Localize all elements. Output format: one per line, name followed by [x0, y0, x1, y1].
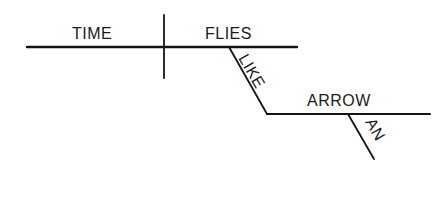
article-word: AN	[362, 115, 388, 144]
object-word: ARROW	[307, 92, 371, 109]
sentence-diagram: TIME FLIES LIKE ARROW AN	[0, 0, 447, 219]
verb-word: FLIES	[205, 25, 252, 42]
preposition-word: LIKE	[235, 51, 268, 91]
subject-word: TIME	[72, 25, 112, 42]
